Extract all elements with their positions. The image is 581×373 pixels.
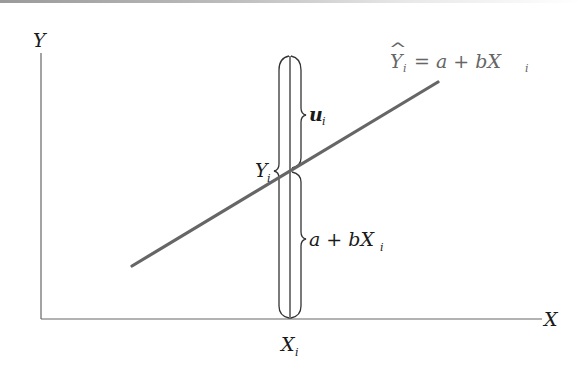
- yi-label: Y i: [255, 159, 271, 185]
- y-axis-label: Y: [33, 29, 48, 51]
- regression-line: [132, 82, 438, 266]
- equation-yhat-sub: i: [403, 62, 407, 75]
- ui-label-main: u: [309, 103, 323, 125]
- xi-label-sub: i: [295, 346, 299, 359]
- fitted-value-label: a + bX i: [309, 228, 384, 254]
- xi-tick-label: X i: [279, 333, 299, 359]
- xi-label-main: X: [279, 333, 296, 355]
- fitted-label-main: a + bX: [309, 228, 375, 250]
- regression-equation: Y ^ i = a + bX i: [389, 39, 529, 75]
- ui-brace: [291, 56, 306, 168]
- hat-icon: ^: [389, 39, 407, 58]
- ui-label-sub: i: [322, 115, 326, 128]
- fitted-value-brace: [291, 172, 306, 318]
- fitted-label-sub: i: [380, 241, 384, 254]
- regression-diagram: Y X Y ^ i = a + bX i u i Y i a + bX i X …: [0, 0, 581, 373]
- equation-rhs: = a + bX: [414, 50, 502, 72]
- x-axis-label: X: [542, 308, 559, 330]
- equation-rhs-sub: i: [525, 62, 529, 75]
- ui-label: u i: [309, 103, 326, 128]
- yi-brace: [274, 56, 289, 318]
- yi-label-sub: i: [267, 172, 271, 185]
